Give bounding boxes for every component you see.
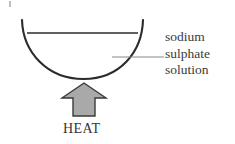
solution-annotation: sodium sulphate solution [165,30,210,80]
flask-outline [22,20,143,79]
up-arrow-icon [62,83,106,116]
annotation-line-2: sulphate [165,47,210,61]
annotation-line-1: sodium [165,30,210,44]
annotation-line-3: solution [165,63,210,77]
heating-solution-diagram: sodium sulphate solution HEAT [0,0,235,144]
heat-label: HEAT [63,122,100,136]
